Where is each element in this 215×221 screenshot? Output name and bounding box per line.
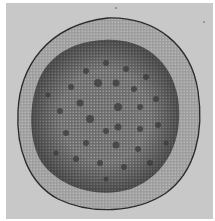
speck (203, 21, 205, 23)
speck (115, 7, 117, 9)
stem-cross-section (6, 3, 213, 219)
micrograph-frame (6, 3, 213, 219)
